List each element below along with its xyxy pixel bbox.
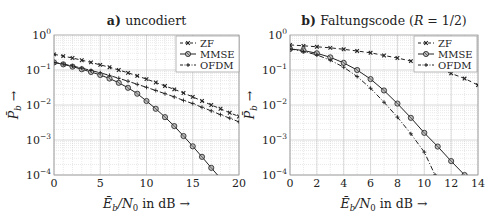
x-tick-labels: 02468101214 — [287, 177, 486, 190]
x-tick-label: 10 — [140, 177, 154, 190]
x-axis-label: Ēb/N0 in dB → — [102, 196, 190, 213]
x-tick-label: 10 — [417, 177, 431, 190]
x-tick-label: 14 — [471, 177, 485, 190]
chart-title: a) uncodiert — [107, 13, 186, 28]
legend-label: OFDM — [200, 60, 233, 71]
x-tick-labels: 05101520 — [51, 177, 247, 190]
y-tick-label: 100 — [32, 27, 51, 42]
x-tick-label: 15 — [186, 177, 200, 190]
x-tick-label: 0 — [287, 177, 294, 190]
y-tick-label: 10−3 — [262, 132, 287, 147]
chart-title: b) Faltungscode (R = 1/2) — [301, 13, 466, 28]
y-tick-label: 100 — [268, 27, 287, 42]
chart-panel-b: 0246810121410010−110−210−310−4b) Faltung… — [242, 13, 485, 213]
y-tick-label: 10−2 — [26, 97, 51, 112]
legend-label: OFDM — [438, 60, 471, 71]
legend: ZFMMSEOFDM — [176, 36, 239, 72]
y-axis-label: P̄b → — [6, 90, 23, 120]
y-tick-label: 10−1 — [262, 62, 287, 77]
x-tick-label: 8 — [394, 177, 401, 190]
x-tick-label: 4 — [340, 177, 347, 190]
y-tick-labels: 10010−110−210−310−4 — [26, 27, 51, 182]
y-tick-label: 10−3 — [26, 132, 51, 147]
x-tick-label: 2 — [313, 177, 320, 190]
legend-label: ZF — [200, 38, 214, 49]
y-tick-label: 10−2 — [262, 97, 287, 112]
series-mmse — [51, 60, 229, 189]
x-tick-label: 5 — [97, 177, 104, 190]
y-tick-label: 10−1 — [26, 62, 51, 77]
y-axis-label: P̄b → — [242, 90, 259, 120]
chart-figure: 0510152010010−110−210−310−4a) uncodiertĒ… — [0, 0, 495, 217]
y-tick-label: 10−4 — [262, 167, 287, 182]
x-tick-label: 0 — [51, 177, 58, 190]
x-tick-label: 20 — [232, 177, 246, 190]
legend: ZFMMSEOFDM — [414, 36, 477, 72]
legend-label: MMSE — [200, 49, 235, 60]
x-tick-label: 6 — [367, 177, 374, 190]
legend-label: MMSE — [438, 49, 473, 60]
chart-panel-a: 0510152010010−110−210−310−4a) uncodiertĒ… — [6, 13, 246, 213]
x-axis-label: Ēb/N0 in dB → — [340, 196, 428, 213]
legend-label: ZF — [438, 38, 452, 49]
x-tick-label: 12 — [444, 177, 458, 190]
y-tick-labels: 10010−110−210−310−4 — [262, 27, 287, 182]
y-tick-label: 10−4 — [26, 167, 51, 182]
